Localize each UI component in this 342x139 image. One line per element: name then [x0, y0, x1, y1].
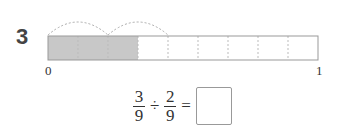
answer-box[interactable]	[196, 87, 232, 125]
equals-sign: =	[181, 96, 191, 116]
tick-label-end: 1	[316, 63, 323, 79]
denominator: 9	[166, 108, 175, 124]
divide-operator: ÷	[150, 96, 159, 116]
denominator: 9	[135, 108, 144, 124]
arc-group-2	[108, 22, 168, 35]
tick-label-start: 0	[45, 63, 52, 79]
equation: 3 9 ÷ 2 9 =	[131, 86, 232, 126]
numerator: 2	[166, 89, 175, 105]
arc-group-1	[48, 22, 108, 35]
shaded-region	[48, 36, 138, 60]
fraction-right: 2 9	[164, 89, 176, 124]
numerator: 3	[135, 89, 144, 105]
fraction-left: 3 9	[133, 89, 145, 124]
